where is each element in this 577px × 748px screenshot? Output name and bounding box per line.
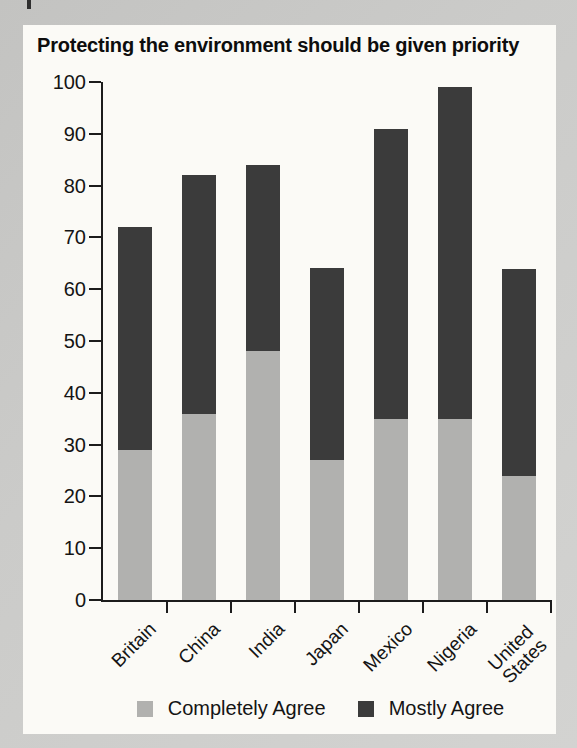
bar-segment-completely-agree — [438, 419, 472, 600]
y-tick — [89, 495, 101, 497]
y-tick-label: 10 — [64, 538, 86, 558]
y-tick — [89, 547, 101, 549]
chart-panel: Protecting the environment should be giv… — [23, 25, 556, 734]
chart-legend: Completely AgreeMostly Agree — [85, 697, 556, 720]
chart-title: Protecting the environment should be giv… — [37, 34, 549, 57]
x-tick — [294, 600, 296, 613]
scanned-book-page: Protecting the environment should be giv… — [0, 0, 577, 748]
bar-segment-mostly-agree — [182, 175, 216, 413]
x-tick — [358, 600, 360, 613]
bar-segment-completely-agree — [310, 460, 344, 600]
bar-segment-mostly-agree — [310, 268, 344, 460]
x-tick — [422, 600, 424, 613]
x-tick-label: Nigeria — [424, 619, 480, 675]
y-tick — [89, 288, 101, 290]
legend-item: Completely Agree — [137, 697, 326, 720]
bar-segment-completely-agree — [182, 414, 216, 600]
y-tick — [89, 340, 101, 342]
y-tick — [89, 133, 101, 135]
y-tick-label: 40 — [64, 383, 86, 403]
category-slot — [359, 82, 423, 600]
y-tick-label: 70 — [64, 227, 86, 247]
x-tick-label: Mexico — [360, 619, 416, 675]
y-tick-label: 100 — [53, 72, 86, 92]
y-tick-label: 30 — [64, 435, 86, 455]
bar-segment-completely-agree — [374, 419, 408, 600]
legend-swatch — [358, 701, 374, 717]
y-tick-label: 80 — [64, 176, 86, 196]
category-slot — [423, 82, 487, 600]
plot-area: 0102030405060708090100BritainChinaIndiaJ… — [101, 82, 551, 602]
y-tick — [89, 392, 101, 394]
bar-segment-mostly-agree — [502, 269, 536, 476]
y-tick-label: 0 — [75, 590, 86, 610]
bar-segment-mostly-agree — [374, 129, 408, 419]
bar-segment-mostly-agree — [246, 165, 280, 351]
y-tick-label: 60 — [64, 279, 86, 299]
bar-segment-completely-agree — [502, 476, 536, 600]
y-tick — [89, 444, 101, 446]
x-tick-label: India — [245, 619, 288, 662]
bar-segment-mostly-agree — [438, 87, 472, 419]
category-slot — [295, 82, 359, 600]
y-tick — [89, 81, 101, 83]
bar-segment-mostly-agree — [118, 227, 152, 450]
x-tick-label: Britain — [108, 619, 160, 671]
category-slot — [103, 82, 167, 600]
y-tick — [89, 185, 101, 187]
y-tick-label: 90 — [64, 124, 86, 144]
y-tick — [89, 236, 101, 238]
category-slot — [231, 82, 295, 600]
scan-artifact — [27, 0, 31, 9]
y-tick-label: 50 — [64, 331, 86, 351]
x-tick-label: China — [175, 619, 224, 668]
category-slot — [487, 82, 551, 600]
y-tick — [89, 599, 101, 601]
x-tick — [550, 600, 552, 613]
x-tick-label: Japan — [302, 619, 352, 669]
bar-segment-completely-agree — [118, 450, 152, 600]
legend-label: Mostly Agree — [389, 697, 505, 720]
y-tick-label: 20 — [64, 486, 86, 506]
category-slot — [167, 82, 231, 600]
legend-swatch — [137, 701, 153, 717]
x-tick — [230, 600, 232, 613]
x-tick — [166, 600, 168, 613]
x-tick-label: United States — [484, 622, 550, 688]
x-tick — [486, 600, 488, 613]
legend-item: Mostly Agree — [358, 697, 505, 720]
bar-segment-completely-agree — [246, 351, 280, 600]
legend-label: Completely Agree — [168, 697, 326, 720]
